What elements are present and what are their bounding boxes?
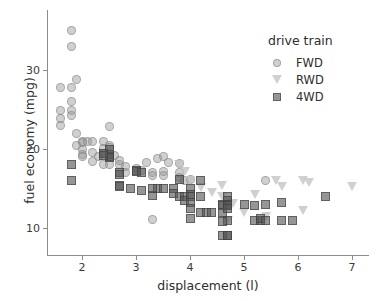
data-point-fwd (159, 171, 168, 180)
data-point-4wd (218, 201, 227, 210)
data-point-fwd (88, 157, 97, 166)
data-point-rwd (298, 176, 308, 185)
data-point-4wd (277, 216, 286, 225)
data-point-rwd (196, 183, 206, 192)
data-point-rwd (298, 206, 308, 215)
data-point-4wd (186, 184, 195, 193)
data-point-4wd (196, 192, 205, 201)
data-point-4wd (218, 217, 227, 226)
data-point-fwd (142, 158, 151, 167)
data-point-4wd (99, 151, 108, 160)
data-point-4wd (159, 184, 168, 193)
data-point-4wd (250, 201, 259, 210)
data-point-4wd (137, 168, 146, 177)
data-point-4wd (169, 184, 178, 193)
legend-item-4wd[interactable]: 4WD (268, 89, 368, 104)
legend: drive train FWD RWD 4WD (268, 33, 368, 106)
data-point-fwd (67, 42, 76, 51)
data-point-4wd (277, 198, 286, 207)
data-point-fwd (78, 137, 87, 146)
data-point-4wd (218, 208, 227, 217)
data-point-4wd (256, 214, 265, 223)
x-axis-tick-label: 4 (187, 261, 194, 274)
legend-title: drive train (268, 33, 368, 48)
data-point-fwd (83, 137, 92, 146)
data-point-fwd (56, 106, 65, 115)
x-axis-tick (136, 256, 137, 260)
x-axis-tick-label: 6 (295, 261, 302, 274)
data-point-fwd (88, 148, 97, 157)
x-axis-tick (352, 256, 353, 260)
data-point-fwd (56, 121, 65, 130)
data-point-fwd (72, 75, 81, 84)
data-point-rwd (207, 188, 217, 197)
data-point-4wd (115, 170, 124, 179)
legend-item-label: FWD (296, 56, 323, 70)
data-point-4wd (223, 216, 232, 225)
data-point-fwd (186, 175, 195, 184)
data-point-rwd (223, 216, 233, 225)
data-point-4wd (186, 214, 195, 223)
data-point-4wd (223, 231, 232, 240)
x-axis-tick-label: 7 (349, 261, 356, 274)
data-point-rwd (271, 176, 281, 185)
data-point-fwd (132, 164, 141, 173)
data-point-rwd (180, 167, 190, 176)
data-point-fwd (105, 122, 114, 131)
data-point-fwd (180, 176, 189, 185)
data-point-4wd (223, 231, 232, 240)
circle-marker-icon (268, 59, 286, 67)
y-axis-tick (43, 228, 47, 229)
data-point-4wd (115, 168, 124, 177)
data-point-4wd (223, 201, 232, 210)
data-point-rwd (250, 190, 260, 199)
data-point-4wd (207, 208, 216, 217)
legend-item-rwd[interactable]: RWD (268, 72, 368, 87)
data-point-fwd (72, 141, 81, 150)
data-point-4wd (105, 150, 114, 159)
data-point-fwd (148, 171, 157, 180)
data-point-fwd (105, 141, 114, 150)
data-point-4wd (115, 181, 124, 190)
data-point-rwd (228, 199, 238, 208)
data-point-fwd (94, 152, 103, 161)
data-point-4wd (261, 216, 270, 225)
data-point-4wd (153, 184, 162, 193)
data-point-4wd (175, 175, 184, 184)
data-point-rwd (304, 178, 314, 187)
data-point-4wd (261, 200, 270, 209)
data-point-fwd (115, 160, 124, 169)
data-point-fwd (78, 150, 87, 159)
data-point-fwd (121, 162, 130, 171)
data-point-4wd (223, 192, 232, 201)
data-point-4wd (250, 216, 259, 225)
data-point-rwd (347, 182, 357, 191)
data-point-rwd (217, 192, 227, 201)
x-axis-title: displacement (l) (47, 278, 369, 293)
data-point-4wd (132, 166, 141, 175)
x-axis-tick-label: 2 (79, 261, 86, 274)
data-point-4wd (186, 190, 195, 199)
data-point-fwd (175, 159, 184, 168)
data-point-4wd (321, 192, 330, 201)
x-axis-tick (190, 256, 191, 260)
data-point-fwd (99, 144, 108, 153)
legend-item-label: 4WD (296, 90, 324, 104)
legend-item-fwd[interactable]: FWD (268, 55, 368, 70)
data-point-4wd (288, 216, 297, 225)
data-point-4wd (218, 200, 227, 209)
data-point-4wd (256, 216, 265, 225)
data-point-rwd (277, 182, 287, 191)
y-axis-tick (43, 70, 47, 71)
data-point-fwd (99, 137, 108, 146)
data-point-rwd (261, 212, 271, 221)
y-axis-title: fuel economy (mpg) (22, 51, 37, 231)
data-point-fwd (164, 158, 173, 167)
data-point-fwd (105, 160, 114, 169)
y-axis-tick (43, 149, 47, 150)
data-point-fwd (67, 83, 76, 92)
data-point-fwd (159, 167, 168, 176)
data-point-fwd (153, 154, 162, 163)
data-point-4wd (169, 189, 178, 198)
data-point-fwd (137, 166, 146, 175)
